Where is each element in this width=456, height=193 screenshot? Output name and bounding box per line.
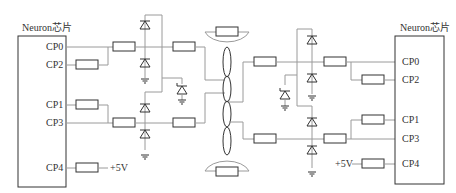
ground-icon <box>308 172 316 176</box>
resistor <box>254 57 276 66</box>
resistor <box>173 118 195 127</box>
resistor <box>113 118 135 127</box>
left-chip-title: Neuron芯片 <box>22 23 72 33</box>
resistor <box>254 134 276 143</box>
left-pin-cp3: CP3 <box>46 118 63 128</box>
termination-resistor <box>216 167 238 176</box>
right-pin-cp0: CP0 <box>402 57 419 67</box>
right-chip-title: Neuron芯片 <box>400 23 450 33</box>
left-pin-cp1: CP1 <box>46 100 63 110</box>
zener-diode-icon <box>177 86 187 94</box>
ground-icon <box>281 106 289 110</box>
circuit-diagram: Neuron芯片 CP0 CP2 CP1 CP3 CP4 +5V Neuron芯… <box>0 0 456 193</box>
zener-diode-icon <box>280 91 290 99</box>
resistor <box>173 42 195 51</box>
resistor <box>76 60 98 69</box>
ground-icon <box>141 155 149 159</box>
resistor <box>76 163 98 172</box>
left-pin-cp0: CP0 <box>46 42 63 52</box>
ground-icon <box>178 100 186 104</box>
resistor <box>324 57 346 66</box>
resistor <box>362 115 384 124</box>
twisted-pair-cable <box>223 47 231 155</box>
right-pin-cp1: CP1 <box>402 115 419 125</box>
termination-resistor <box>216 27 238 36</box>
resistor <box>113 42 135 51</box>
right-pin-cp4: CP4 <box>402 159 419 169</box>
left-pin-cp2: CP2 <box>46 60 63 70</box>
right-pin-cp3: CP3 <box>402 134 419 144</box>
left-pin-cp4: CP4 <box>46 163 63 173</box>
right-supply-label: +5V <box>335 159 353 169</box>
resistor <box>362 159 384 168</box>
left-supply-label: +5V <box>110 163 128 173</box>
resistor <box>362 75 384 84</box>
resistor <box>76 100 98 109</box>
ground-icon <box>141 79 149 83</box>
right-pin-cp2: CP2 <box>402 75 419 85</box>
resistor <box>324 134 346 143</box>
ground-icon <box>308 96 316 100</box>
